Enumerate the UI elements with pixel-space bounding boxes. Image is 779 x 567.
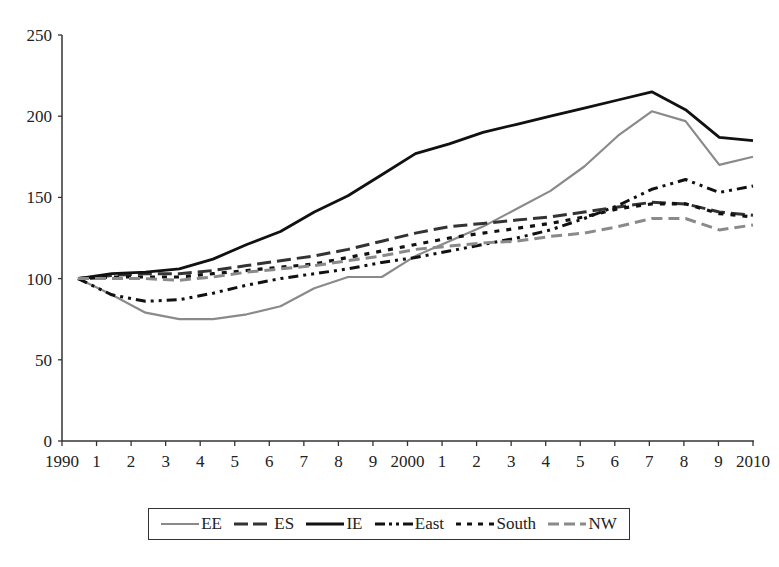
x-tick-label: 2	[472, 452, 481, 471]
legend-swatch-nw-icon	[548, 519, 586, 529]
axes: 0501001502002501990123456789200012345678…	[27, 26, 771, 471]
legend-item-ee: EE	[161, 514, 222, 534]
legend-label: South	[496, 514, 536, 534]
chart-legend: EE ES IE East South NW	[148, 508, 630, 540]
y-tick-label: 250	[27, 26, 53, 45]
legend-label: EE	[201, 514, 222, 534]
series-line-nw	[78, 219, 753, 281]
series-line-east	[78, 180, 753, 302]
x-tick-label: 6	[265, 452, 274, 471]
x-tick-label: 6	[611, 452, 620, 471]
y-tick-label: 200	[27, 107, 53, 126]
line-chart: 0501001502002501990123456789200012345678…	[0, 0, 779, 500]
legend-swatch-east-icon	[375, 519, 413, 529]
x-tick-label: 8	[334, 452, 343, 471]
legend-item-nw: NW	[548, 514, 616, 534]
x-tick-label: 8	[680, 452, 689, 471]
legend-label: East	[415, 514, 444, 534]
series-line-es	[78, 202, 753, 278]
legend-swatch-south-icon	[456, 519, 494, 529]
series-lines	[78, 92, 753, 319]
x-tick-label: 9	[714, 452, 723, 471]
y-tick-label: 150	[27, 188, 53, 207]
y-tick-label: 100	[27, 270, 53, 289]
x-tick-label: 2010	[736, 452, 770, 471]
x-tick-label: 3	[507, 452, 516, 471]
series-line-ie	[78, 92, 753, 279]
legend-label: IE	[346, 514, 362, 534]
legend-swatch-ee-icon	[161, 519, 199, 529]
x-tick-label: 7	[645, 452, 654, 471]
legend-item-east: East	[375, 514, 444, 534]
y-tick-label: 0	[44, 432, 53, 451]
x-tick-label: 5	[231, 452, 240, 471]
legend-label: NW	[588, 514, 616, 534]
x-tick-label: 5	[576, 452, 585, 471]
x-tick-label: 1	[438, 452, 447, 471]
x-tick-label: 2000	[391, 452, 425, 471]
x-tick-label: 1990	[45, 452, 79, 471]
legend-item-ie: IE	[306, 514, 362, 534]
x-tick-label: 1	[92, 452, 101, 471]
legend-swatch-ie-icon	[306, 519, 344, 529]
series-line-south	[78, 204, 753, 279]
x-tick-label: 3	[161, 452, 170, 471]
x-tick-label: 9	[369, 452, 378, 471]
legend-item-south: South	[456, 514, 536, 534]
legend-swatch-es-icon	[234, 519, 272, 529]
legend-item-es: ES	[234, 514, 294, 534]
x-tick-label: 7	[300, 452, 309, 471]
y-tick-label: 50	[35, 351, 52, 370]
legend-label: ES	[274, 514, 294, 534]
x-tick-label: 4	[541, 452, 550, 471]
series-line-ee	[78, 111, 753, 319]
x-tick-label: 2	[127, 452, 136, 471]
x-tick-label: 4	[196, 452, 205, 471]
